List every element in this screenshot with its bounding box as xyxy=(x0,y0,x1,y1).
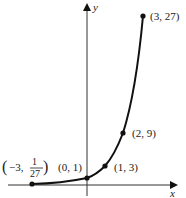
point-0 xyxy=(84,175,89,180)
point-2 xyxy=(120,130,125,135)
x-axis-label: x xyxy=(169,187,175,198)
label-point-0: (0, 1) xyxy=(58,161,82,174)
point-neg3 xyxy=(29,181,34,186)
svg-text:): ) xyxy=(43,158,48,176)
y-axis-label: y xyxy=(92,1,98,13)
label-point-1: (1, 3) xyxy=(114,161,138,174)
exponential-graph: x y (3, 27) (2, 9) (1, 3) (0, 1) ( −3, 1… xyxy=(0,0,186,198)
label-point-neg3: ( −3, 1 27 ) xyxy=(2,156,48,179)
svg-text:−3,: −3, xyxy=(9,161,24,173)
point-3 xyxy=(140,13,145,18)
svg-text:27: 27 xyxy=(30,168,40,179)
point-1 xyxy=(102,163,107,168)
svg-text:1: 1 xyxy=(32,156,37,167)
label-point-3: (3, 27) xyxy=(150,10,180,23)
label-point-2: (2, 9) xyxy=(132,127,156,140)
svg-text:(: ( xyxy=(2,158,7,176)
